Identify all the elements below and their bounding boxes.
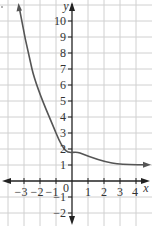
x-tick-label-4: 4 — [132, 185, 138, 199]
y-axis-label: y — [62, 0, 69, 13]
x-tick-label-2: 2 — [101, 185, 107, 199]
x-tick-label-neg2: −2 — [31, 185, 44, 199]
y-axis-up-arrow-icon — [69, 2, 75, 11]
exponential-curve — [19, 7, 146, 164]
curve-top-arrow-icon — [17, 3, 23, 12]
corner-dot — [1, 6, 3, 8]
exponential-graph: 10 9 8 7 6 5 4 3 2 1 −1 −2 −3 −2 −1 1 2 … — [0, 0, 152, 226]
y-tick-label-1: 1 — [60, 158, 66, 172]
y-tick-label-neg2: −2 — [53, 206, 66, 220]
y-tick-label-8: 8 — [60, 46, 66, 60]
y-tick-label-4: 4 — [60, 110, 66, 124]
y-tick-label-2: 2 — [60, 142, 66, 156]
y-tick-label-3: 3 — [60, 126, 66, 140]
y-tick-label-5: 5 — [60, 94, 66, 108]
y-tick-label-10: 10 — [54, 14, 66, 28]
x-tick-label-neg3: −3 — [15, 185, 28, 199]
y-tick-label-6: 6 — [60, 78, 66, 92]
y-tick-label-7: 7 — [60, 62, 66, 76]
y-axis-down-arrow-icon — [69, 216, 75, 225]
x-tick-label-1: 1 — [85, 185, 91, 199]
x-tick-label-3: 3 — [117, 185, 123, 199]
x-tick-label-neg1: −1 — [46, 185, 59, 199]
x-axis-left-arrow-icon — [2, 178, 11, 184]
x-axis-label: x — [142, 181, 149, 195]
curve-right-arrow-icon — [143, 162, 151, 168]
y-tick-label-9: 9 — [60, 30, 66, 44]
origin-label: 0 — [63, 181, 69, 195]
